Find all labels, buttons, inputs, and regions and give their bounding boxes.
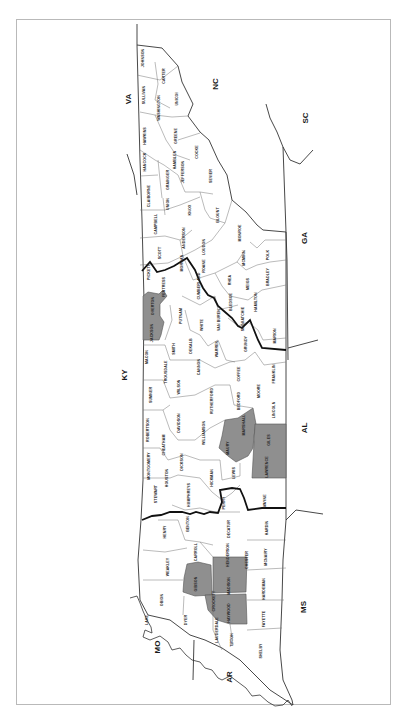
state-label-ar: AR: [225, 671, 234, 683]
county-label-wayne: WAYNE: [263, 494, 267, 508]
county-label-monroe: MONROE: [238, 224, 242, 241]
county-label-putnam: PUTNAM: [179, 308, 183, 324]
county-label-fayette: FAYETTE: [262, 610, 266, 627]
county-label-trousdale: TROUSDALE: [164, 360, 168, 384]
county-label-gibson: GIBSON: [194, 576, 198, 591]
state-label-sc: SC: [301, 112, 310, 123]
county-label-grundy: GRUNDY: [244, 335, 248, 352]
county-label-warren: WARREN: [215, 340, 219, 357]
county-label-obion: OBION: [160, 594, 164, 607]
state-label-al: AL: [300, 423, 309, 434]
county-label-macon: MACON: [145, 350, 149, 364]
county-label-franklin: FRANKLIN: [272, 364, 276, 383]
county-label-meigs: MEIGS: [246, 277, 250, 290]
county-label-white: WHITE: [200, 318, 204, 331]
county-label-johnson: JOHNSON: [141, 48, 145, 67]
state-label-nc: NC: [211, 78, 220, 90]
county-label-lauderdale: LAUDERDALE: [215, 617, 219, 643]
county-label-scott: SCOTT: [158, 246, 162, 259]
county-label-houston: HOUSTON: [165, 468, 169, 487]
county-label-carroll: CARROLL: [194, 542, 198, 561]
county-label-smith: SMITH: [172, 343, 176, 355]
county-label-campbell: CAMPBELL: [154, 213, 158, 234]
county-label-hamilton: HAMILTON: [254, 292, 258, 312]
county-label-roane: ROANE: [202, 259, 206, 273]
county-label-shelby: SHELBY: [259, 643, 263, 659]
county-label-cumberland: CUMBERLAND: [197, 272, 201, 299]
tennessee-county-map: VANCSCGAKYALMSMOAR JOHNSONCARTERSULLIVAN…: [0, 0, 403, 718]
county-label-van-buren: VAN BUREN: [217, 309, 221, 331]
state-label-mo: MO: [153, 641, 162, 654]
county-label-polk: POLK: [266, 250, 270, 261]
county-label-cocke: COCKE: [195, 145, 199, 159]
county-label-loudon: LOUDON: [202, 239, 206, 255]
county-label-washington: WASHINGTON: [157, 95, 161, 121]
county-label-humphreys: HUMPHREYS: [187, 483, 191, 507]
county-label-dyer: DYER: [184, 615, 188, 626]
county-label-haywood: HAYWOOD: [227, 603, 231, 623]
county-label-madison: MADISON: [227, 577, 231, 595]
county-label-marion: MARION: [273, 328, 277, 343]
county-label-henderson: HENDERSON: [226, 543, 230, 567]
county-label-stewart: STEWART: [154, 484, 158, 503]
county-label-decatur: DECATUR: [227, 520, 231, 538]
county-label-sevier: SEVIER: [209, 169, 213, 183]
county-label-mcminn: MCMINN: [242, 250, 246, 266]
county-label-wilson: WILSON: [177, 379, 181, 394]
county-label-blount: BLOUNT: [216, 207, 220, 223]
county-label-cheatham: CHEATHAM: [162, 434, 166, 455]
state-label-ms: MS: [299, 600, 308, 613]
county-label-chester: CHESTER: [245, 551, 249, 569]
county-label-giles: GILES: [267, 434, 271, 446]
county-label-greene: GREENE: [174, 128, 178, 144]
county-label-bradley: BRADLEY: [266, 267, 270, 286]
county-giles-lawrence: [252, 424, 286, 478]
county-label-lawrence: LAWRENCE: [265, 456, 269, 478]
county-label-williamson: WILLIAMSON: [202, 421, 206, 445]
county-label-claiborne: CLAIBORNE: [147, 184, 151, 207]
county-label-unicoi: UNICOI: [175, 92, 179, 105]
state-label-va: VA: [124, 94, 133, 105]
county-label-hawkins: HAWKINS: [143, 127, 147, 145]
state-label-ga: GA: [300, 232, 309, 244]
county-label-fentress: FENTRESS: [162, 277, 166, 297]
county-label-hamblen: HAMBLEN: [173, 150, 177, 169]
county-label-pickett: PICKETT: [147, 263, 151, 280]
county-label-henry: HENRY: [163, 525, 167, 538]
county-label-robertson: ROBERTSON: [146, 418, 150, 442]
county-label-carter: CARTER: [162, 68, 166, 84]
county-label-rutherford: RUTHERFORD: [210, 388, 214, 414]
county-maury-marshall: [219, 408, 256, 462]
county-label-dickson: DICKSON: [180, 453, 184, 471]
county-label-morgan: MORGAN: [180, 254, 184, 271]
county-label-hancock: HANCOCK: [143, 152, 147, 171]
county-label-crockett: CROCKETT: [212, 590, 216, 611]
county-label-perry: PERRY: [222, 496, 226, 509]
county-label-lake: LAKE: [145, 614, 149, 625]
county-label-maury: MAURY: [226, 441, 230, 455]
county-label-jackson: JACKSON: [150, 324, 154, 343]
county-label-rhea: RHEA: [228, 274, 232, 285]
county-label-bedford: BEDFORD: [237, 391, 241, 410]
county-label-moore: MOORE: [257, 383, 261, 398]
county-label-dekalb: DEKALB: [189, 338, 193, 354]
county-label-weakley: WEAKLEY: [166, 557, 170, 576]
county-label-anderson: ANDERSON: [182, 227, 186, 249]
county-label-hickman: HICKMAN: [210, 469, 214, 487]
county-label-union: UNION: [166, 198, 170, 210]
county-label-sequatchie: SEQUATCHIE: [241, 306, 245, 331]
county-label-davidson: DAVIDSON: [177, 413, 181, 433]
county-label-hardin: HARDIN: [265, 520, 269, 535]
county-label-sumner: SUMNER: [149, 387, 153, 403]
county-label-overton: OVERTON: [151, 296, 155, 315]
state-label-ky: KY: [120, 369, 129, 381]
county-label-tipton: TIPTON: [230, 633, 234, 647]
county-label-marshall: MARSHALL: [242, 414, 246, 436]
county-label-coffee: COFFEE: [237, 366, 241, 382]
county-label-grainger: GRAINGER: [166, 170, 170, 190]
county-label-lincoln: LINCOLN: [272, 401, 276, 418]
county-label-lewis: LEWIS: [232, 467, 236, 479]
county-label-jefferson: JEFFERSON: [181, 160, 185, 183]
county-label-bledsoe: BLEDSOE: [229, 292, 233, 311]
county-label-benton: BENTON: [186, 516, 190, 532]
